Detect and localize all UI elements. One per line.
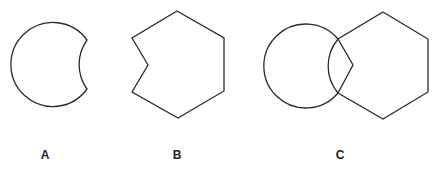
shape-c-notched-hexagon	[338, 12, 428, 119]
panel-a: A	[11, 22, 87, 162]
panel-c: C	[264, 12, 428, 162]
shape-b-notched-hexagon	[132, 11, 224, 118]
label-b: B	[173, 148, 182, 162]
figure-canvas: A B C	[0, 0, 444, 172]
shape-c-circle-outer-arc	[264, 24, 338, 108]
panel-b: B	[132, 11, 224, 162]
label-c: C	[336, 148, 345, 162]
shape-c-circle-inner-arc	[328, 39, 338, 93]
shape-a-bitten-circle	[11, 22, 87, 106]
label-a: A	[41, 148, 50, 162]
